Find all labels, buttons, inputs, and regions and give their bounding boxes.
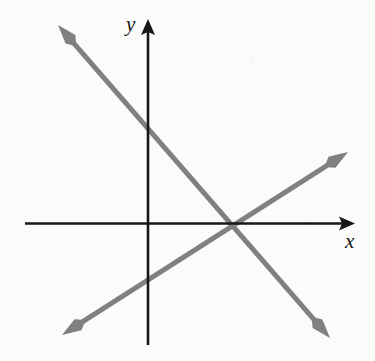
- x-axis-label: x: [345, 231, 354, 252]
- x-axis: [25, 217, 355, 231]
- ascending-line-arrowhead-lower-left: [62, 319, 86, 335]
- plotted-lines: [58, 25, 348, 338]
- descending-line: [58, 25, 330, 338]
- descending-line-arrowhead-lower-right: [312, 317, 330, 338]
- y-axis-label: y: [126, 14, 135, 35]
- coordinate-plane-svg: [0, 0, 375, 361]
- y-axis: [141, 19, 155, 345]
- graph-figure: y x: [0, 0, 375, 361]
- descending-line-segment: [67, 36, 321, 328]
- ascending-line-arrowhead-upper-right: [324, 152, 348, 168]
- descending-line-arrowhead-upper-left: [58, 25, 76, 46]
